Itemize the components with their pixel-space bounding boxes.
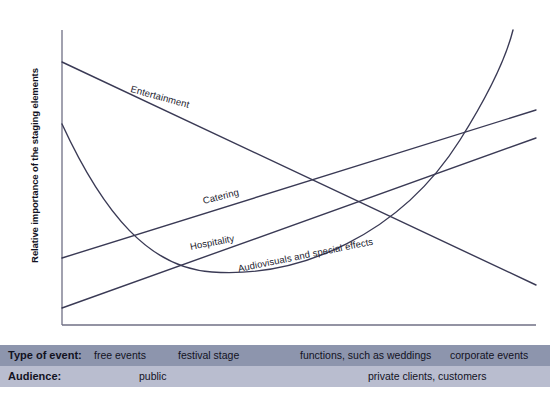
event-staging-chart-figure: Relative importance of the staging eleme… bbox=[0, 0, 550, 393]
series-line-hospitality bbox=[62, 138, 536, 308]
table-row: Audience: public private clients, custom… bbox=[0, 366, 550, 387]
chart-curves-svg bbox=[0, 0, 550, 340]
cell-audience-private-clients: private clients, customers bbox=[368, 366, 486, 387]
chart-plot-area: Relative importance of the staging eleme… bbox=[0, 0, 550, 340]
cell-audience-public: public bbox=[139, 366, 166, 387]
event-type-audience-table: Type of event: free events festival stag… bbox=[0, 345, 550, 387]
table-row: Type of event: free events festival stag… bbox=[0, 345, 550, 366]
row-label-type-of-event: Type of event: bbox=[8, 345, 82, 366]
row-label-audience: Audience: bbox=[8, 366, 61, 387]
cell-type-free-events: free events bbox=[94, 345, 146, 366]
cell-type-functions-weddings: functions, such as weddings bbox=[300, 345, 431, 366]
cell-type-festival-stage: festival stage bbox=[178, 345, 239, 366]
y-axis-title: Relative importance of the staging eleme… bbox=[29, 16, 40, 316]
cell-type-corporate-events: corporate events bbox=[450, 345, 528, 366]
